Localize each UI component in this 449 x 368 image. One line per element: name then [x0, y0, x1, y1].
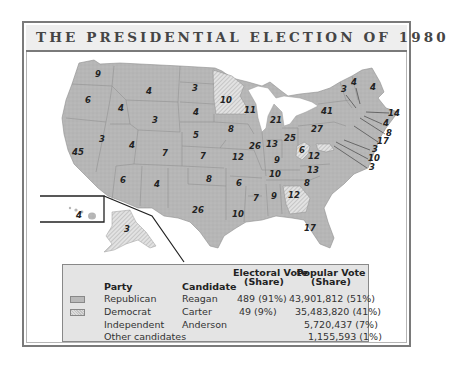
state-ev-ne: 5 [193, 130, 199, 140]
state-ev-ok: 8 [206, 174, 212, 184]
state-ev-ga: 12 [288, 190, 300, 200]
legend-header-electoral: Electoral Vote (Share) [233, 267, 295, 287]
state-ev-sc: 8 [304, 178, 310, 188]
hawaii-islands [69, 207, 96, 220]
popular-carter: 35,483,820 (41%) [295, 306, 381, 317]
state-ev-la: 10 [232, 209, 244, 219]
state-ev-az: 6 [120, 175, 126, 185]
electoral-reagan: 489 (91%) [237, 293, 287, 304]
state-ev-dc: 3 [369, 162, 375, 172]
state-ev-me: 4 [369, 82, 376, 92]
party-republican: Republican [104, 293, 156, 304]
state-ev-nc: 13 [307, 165, 319, 175]
state-ev-tn: 10 [269, 169, 281, 179]
state-ev-nd: 3 [192, 83, 198, 93]
state-mn-democrat [213, 70, 246, 114]
state-ev-mi: 21 [270, 115, 282, 125]
state-ev-mt: 4 [145, 86, 152, 96]
state-ak-shape [104, 210, 156, 252]
state-ev-wi: 11 [244, 105, 256, 115]
state-ev-nv: 3 [99, 134, 105, 144]
legend-header-candidate: Candidate [182, 281, 236, 292]
state-ev-ri: 4 [382, 118, 389, 128]
republican-swatch [70, 296, 85, 303]
state-ev-al: 9 [271, 191, 277, 201]
state-ev-ks: 7 [200, 151, 206, 161]
state-ev-ar: 6 [236, 178, 242, 188]
state-ev-vt: 3 [341, 84, 347, 94]
state-ev-mn: 10 [220, 95, 232, 105]
state-ev-nm: 4 [153, 179, 160, 189]
legend-header-party: Party [104, 281, 133, 292]
party-democrat: Democrat [104, 306, 151, 317]
democrat-swatch [70, 309, 85, 316]
state-ev-pa: 27 [311, 124, 323, 134]
candidate-carter: Carter [182, 306, 212, 317]
state-ev-ca: 45 [71, 147, 84, 157]
state-ev-id: 4 [117, 103, 124, 113]
state-ev-ms: 7 [253, 193, 259, 203]
state-ev-tx: 26 [192, 205, 204, 215]
state-ev-ia: 8 [228, 124, 234, 134]
state-ev-ut: 4 [128, 140, 135, 150]
state-ev-ak: 3 [124, 224, 130, 234]
state-ev-nj: 17 [377, 136, 389, 146]
legend-header-popular: Popular Vote (Share) [295, 267, 367, 287]
party-independent: Independent [104, 319, 164, 330]
state-ev-ma: 14 [388, 108, 400, 118]
state-ev-il: 26 [249, 141, 261, 151]
state-ev-in: 13 [266, 139, 278, 149]
state-ev-wv: 6 [299, 145, 305, 155]
state-ev-oh: 25 [284, 133, 296, 143]
state-ev-ny: 41 [320, 106, 333, 116]
state-ev-fl: 17 [304, 223, 316, 233]
candidate-anderson: Anderson [182, 319, 227, 330]
state-ev-or: 6 [85, 95, 91, 105]
state-ev-wa: 9 [95, 69, 101, 79]
state-ev-sd: 4 [192, 107, 199, 117]
state-ev-ky: 9 [274, 155, 280, 165]
electoral-carter: 49 (9%) [239, 306, 277, 317]
state-ev-mo: 12 [232, 152, 244, 162]
state-ev-hi: 4 [75, 210, 82, 220]
candidate-reagan: Reagan [182, 293, 218, 304]
party-other: Other candidates [104, 331, 186, 342]
state-ev-va: 12 [308, 151, 320, 161]
state-ev-wy: 3 [152, 115, 158, 125]
state-ev-nh: 4 [350, 77, 357, 87]
popular-anderson: 5,720,437 (7%) [304, 319, 378, 330]
state-ev-co: 7 [162, 148, 168, 158]
popular-other: 1,155,593 (1%) [308, 331, 382, 342]
legend-table: Party Candidate Electoral Vote (Share) P… [62, 264, 369, 342]
popular-reagan: 43,901,812 (51%) [289, 293, 375, 304]
